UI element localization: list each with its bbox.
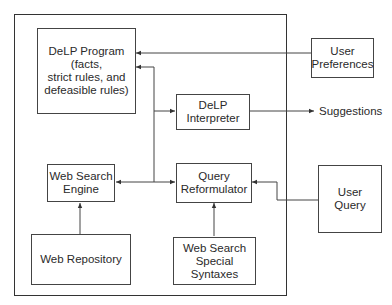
architecture-diagram: DeLP Program (facts, strict rules, and d… <box>0 0 392 305</box>
delp-interpreter-box: DeLP Interpreter <box>176 94 250 130</box>
query-reformulator-box: Query Reformulator <box>176 163 252 203</box>
web-repository-box: Web Repository <box>31 234 131 285</box>
user-preferences-box: User Preferences <box>311 38 374 78</box>
user-query-box: User Query <box>318 165 382 233</box>
web-search-engine-box: Web Search Engine <box>47 164 115 202</box>
suggestions-output-label: Suggestions <box>319 105 382 118</box>
web-search-special-syntaxes-box: Web Search Special Syntaxes <box>173 237 256 285</box>
delp-program-box: DeLP Program (facts, strict rules, and d… <box>37 28 136 114</box>
